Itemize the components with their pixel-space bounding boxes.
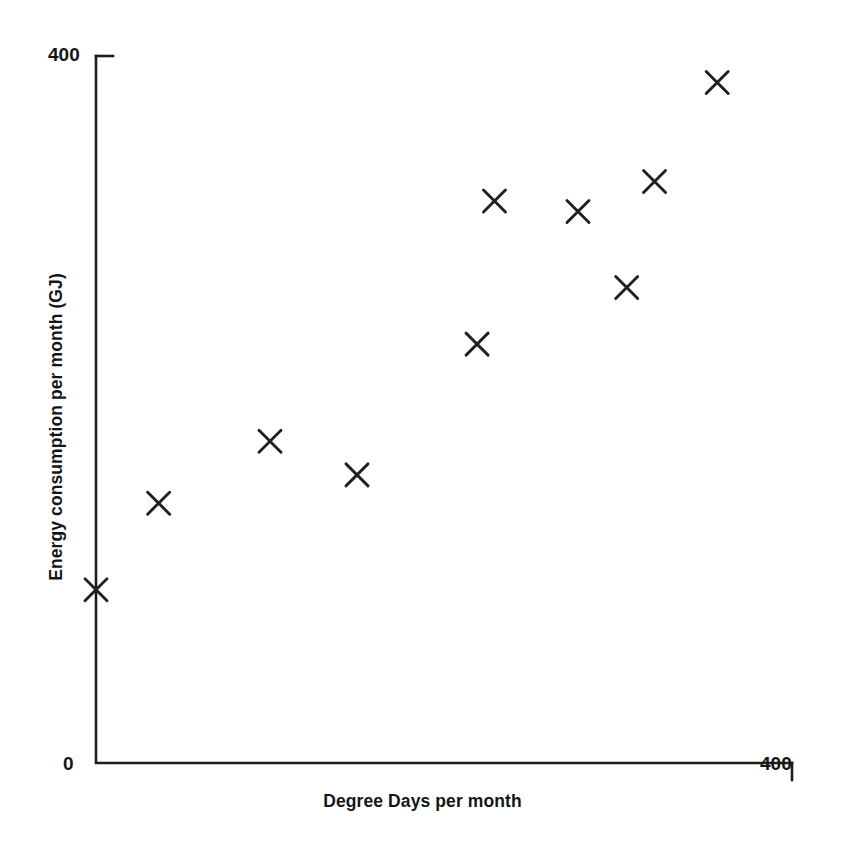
data-point-marker — [567, 201, 589, 223]
data-point-marker — [644, 170, 666, 192]
y-axis-title: Energy consumption per month (GJ) — [46, 273, 67, 581]
plot-area — [0, 0, 845, 853]
data-point-marker — [148, 492, 170, 514]
y-axis-title-container: Energy consumption per month (GJ) — [36, 0, 76, 853]
data-point-marker — [483, 190, 505, 212]
x-axis-title: Degree Days per month — [0, 791, 845, 812]
data-point-marker — [616, 277, 638, 299]
data-point-marker — [706, 72, 728, 94]
data-point-marker — [466, 333, 488, 355]
axis-frame — [96, 56, 792, 763]
data-point-group — [85, 72, 728, 601]
scatter-chart-figure: 400 0 400 Degree Days per month Energy c… — [0, 0, 845, 853]
data-point-marker — [259, 430, 281, 452]
data-point-marker — [346, 464, 368, 486]
x-axis-max-tick-label: 400 — [760, 753, 792, 775]
